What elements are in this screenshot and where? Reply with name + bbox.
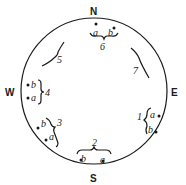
label-east: E [171, 87, 178, 98]
number-1: 1 [137, 111, 142, 122]
group-1: 1 a b [137, 108, 161, 135]
group-2: 2 b a [77, 137, 111, 165]
label-1a: a [150, 109, 155, 120]
label-3b: b [41, 118, 46, 129]
compass-diagram: N S E W a b 6 5 7 b a 4 b a 3 2 [0, 0, 186, 185]
group-5: 5 [42, 42, 64, 66]
point-3a [45, 139, 48, 142]
label-2a: a [100, 154, 105, 165]
brace-4 [38, 80, 44, 104]
group-4: b a 4 [27, 79, 51, 104]
group-3: b a 3 [37, 117, 63, 147]
point-4a [27, 97, 30, 100]
label-3a: a [49, 131, 54, 142]
point-2a [102, 160, 105, 163]
group-6: a b 6 [90, 23, 118, 53]
label-south: S [90, 173, 97, 184]
label-4b: b [31, 79, 36, 90]
group-7: 7 [131, 48, 149, 78]
number-5: 5 [57, 54, 62, 65]
number-7: 7 [133, 65, 139, 76]
number-6: 6 [100, 41, 105, 52]
point-3b [37, 127, 40, 130]
point-1a [158, 115, 161, 118]
number-3: 3 [56, 117, 62, 128]
point-4b [27, 84, 30, 87]
label-west: W [5, 87, 15, 98]
point-6a [95, 23, 98, 26]
label-north: N [90, 6, 97, 17]
point-2b [80, 159, 83, 162]
number-4: 4 [45, 87, 50, 98]
point-1b [155, 131, 158, 134]
label-1b: b [148, 124, 153, 135]
label-4a: a [31, 92, 36, 103]
label-2b: b [81, 153, 86, 164]
number-2: 2 [92, 137, 97, 148]
